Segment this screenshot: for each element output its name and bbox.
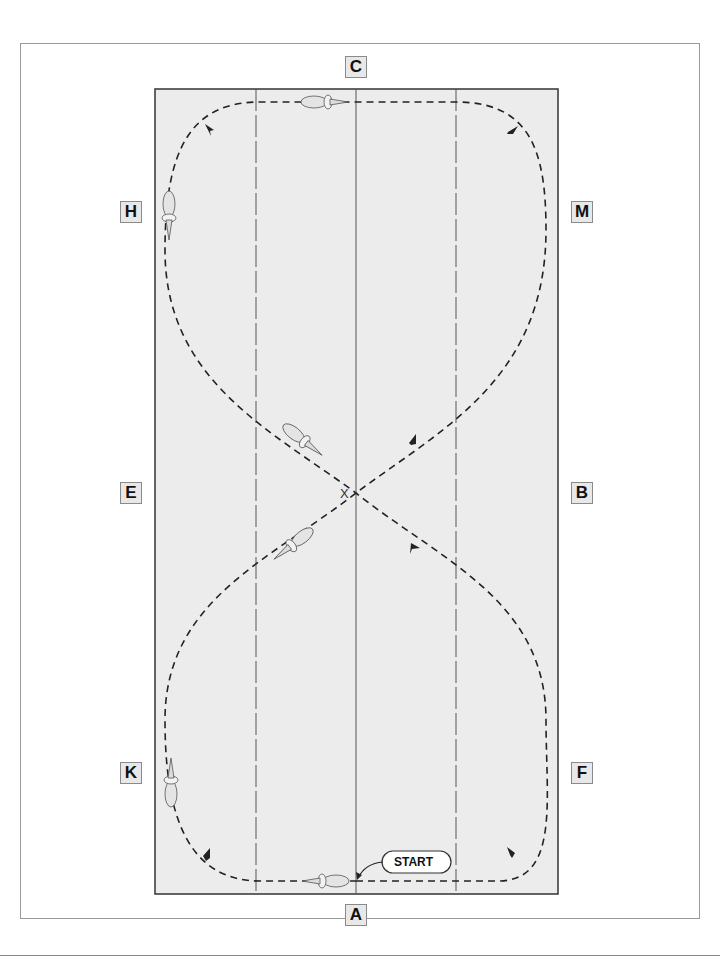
marker-h: H bbox=[120, 201, 142, 223]
arena-diagram: X START bbox=[0, 0, 720, 966]
center-x-label: X bbox=[340, 486, 349, 501]
marker-k: K bbox=[120, 762, 142, 784]
marker-c: C bbox=[345, 56, 367, 78]
marker-e: E bbox=[120, 482, 142, 504]
marker-m: M bbox=[571, 201, 593, 223]
marker-f: F bbox=[571, 762, 593, 784]
marker-b: B bbox=[571, 482, 593, 504]
marker-a: A bbox=[345, 904, 367, 926]
start-label: START bbox=[394, 855, 434, 869]
